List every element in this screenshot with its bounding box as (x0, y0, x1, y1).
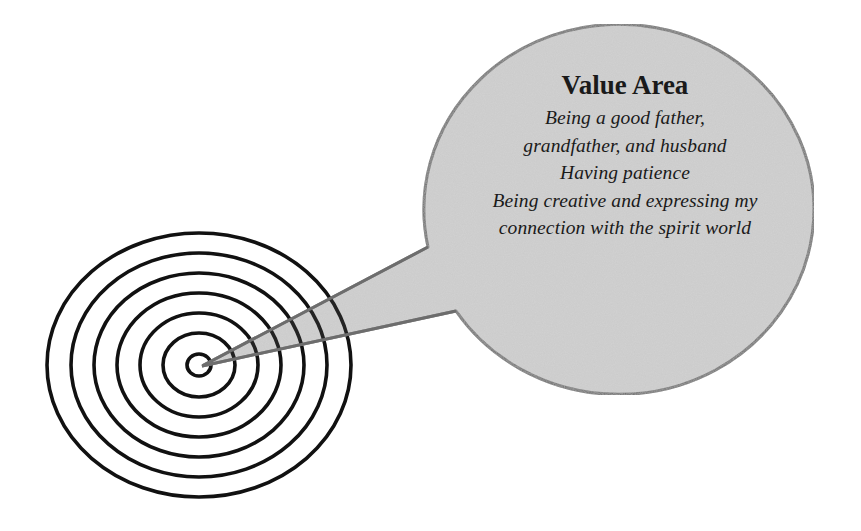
target-rings (47, 233, 351, 497)
bubble-title: Value Area (430, 68, 820, 102)
ring-3 (94, 273, 304, 457)
ring-6 (163, 333, 235, 397)
value-line-3: Having patience (430, 159, 820, 187)
ring-2 (71, 253, 327, 477)
value-line-4: Being creative and expressing my (430, 187, 820, 215)
value-line-5: connection with the spirit world (430, 214, 820, 242)
value-line-1: Being a good father, (430, 104, 820, 132)
speech-bubble-text: Value Area Being a good father, grandfat… (430, 68, 820, 242)
value-line-2: grandfather, and husband (430, 132, 820, 160)
ring-5 (140, 313, 258, 417)
